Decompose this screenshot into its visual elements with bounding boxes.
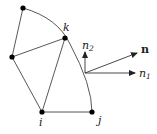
node-j bbox=[89, 109, 94, 114]
label-n: n bbox=[141, 43, 149, 56]
edge-k-i bbox=[42, 38, 65, 112]
svg-text:n1: n1 bbox=[139, 67, 151, 81]
edge-left-i bbox=[12, 57, 42, 112]
svg-text:n2: n2 bbox=[82, 39, 94, 53]
node-top bbox=[20, 5, 25, 10]
n-arrow bbox=[85, 53, 137, 73]
edge-top-left bbox=[12, 8, 23, 57]
label-j: j bbox=[95, 114, 102, 127]
fem-diagram: k i j n2 n1 n bbox=[0, 0, 157, 134]
label-n1: n1 bbox=[139, 67, 151, 81]
label-i: i bbox=[39, 116, 43, 129]
label-k: k bbox=[63, 21, 70, 34]
node-k bbox=[62, 35, 67, 40]
node-i bbox=[39, 109, 44, 114]
element-edges bbox=[12, 8, 92, 112]
node-left bbox=[9, 54, 14, 59]
label-n2: n2 bbox=[82, 39, 94, 53]
edge-left-k bbox=[12, 38, 65, 57]
normal-vectors bbox=[85, 52, 137, 73]
